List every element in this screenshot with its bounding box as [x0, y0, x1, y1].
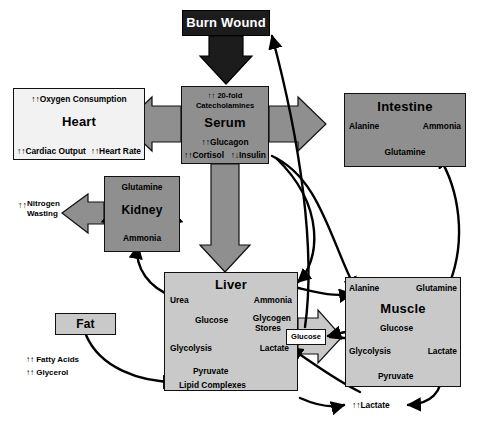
node-intestine[interactable]: Intestine Alanine Ammonia Glutamine [344, 93, 466, 167]
liver-lactate: Lactate [260, 343, 289, 353]
curve-muscle-to-intestine [438, 155, 459, 282]
lactate-increase-label: ↑↑Lactate [352, 400, 390, 410]
fat-title: Fat [76, 317, 95, 331]
liver-title: Liver [165, 277, 297, 292]
liver-ammonia: Ammonia [254, 295, 292, 305]
liver-glycogen-stores-line2: Stores [255, 323, 281, 333]
fatty-acids-label: ↑↑ Fatty Acids [26, 355, 79, 364]
node-burn-wound[interactable]: Burn Wound [182, 10, 270, 36]
block-arrow-serum-to-liver [200, 164, 250, 272]
glucose-bridge-label: Glucose [286, 329, 326, 345]
block-arrow-serum-to-intestine [269, 97, 326, 151]
liver-lipid-complexes: Lipid Complexes [179, 380, 246, 390]
node-heart[interactable]: ↑↑Oxygen Consumption Heart ↑↑Cardiac Out… [13, 88, 145, 160]
diagram-canvas: Burn Wound ↑↑ 20-fold Catecholamines Ser… [0, 0, 479, 421]
muscle-lactate: Lactate [428, 346, 457, 356]
liver-glycogen-stores-line1: Glycogen [253, 313, 291, 323]
curve-liver-to-muscle-alanine [294, 287, 352, 295]
node-muscle[interactable]: Alanine Glutamine Muscle Glucose Glycoly… [345, 277, 461, 387]
serum-cortisol: ↑↑Cortisol [184, 150, 224, 160]
intestine-title: Intestine [345, 99, 465, 114]
liver-glucose: Glucose [195, 315, 228, 325]
liver-urea: Urea [170, 295, 189, 305]
node-fat[interactable]: Fat [55, 313, 116, 335]
block-arrow-burnwound-to-serum [200, 36, 252, 84]
node-kidney[interactable]: Glutamine Kidney Ammonia [104, 176, 180, 252]
node-liver[interactable]: Liver Urea Ammonia Glucose Glycogen Stor… [164, 272, 298, 391]
liver-pyruvate: Pyruvate [193, 366, 228, 376]
kidney-title: Kidney [105, 203, 179, 217]
serum-catecholamines-line1: ↑↑ 20-fold [182, 91, 268, 100]
node-serum[interactable]: ↑↑ 20-fold Catecholamines Serum ↑↑Glucag… [181, 86, 269, 164]
serum-title: Serum [182, 115, 268, 130]
intestine-glutamine: Glutamine [345, 147, 465, 157]
muscle-glucose: Glucose [380, 323, 413, 333]
muscle-pyruvate: Pyruvate [378, 371, 413, 381]
muscle-alanine: Alanine [349, 283, 379, 293]
kidney-ammonia: Ammonia [105, 233, 179, 243]
nitrogen-wasting-line2: Wasting [27, 209, 58, 218]
muscle-title: Muscle [346, 301, 460, 316]
muscle-glycolysis: Glycolysis [349, 346, 391, 356]
muscle-glutamine: Glutamine [416, 283, 457, 293]
heart-title: Heart [14, 114, 144, 129]
nitrogen-wasting-arrows: ↑↑ [18, 200, 27, 210]
serum-glucagon: ↑↑Glucagon [182, 137, 268, 147]
burn-wound-title: Burn Wound [183, 11, 269, 35]
curve-fat-to-lipid-complexes [86, 335, 176, 382]
intestine-alanine: Alanine [349, 121, 379, 131]
serum-insulin: ↑↓Insulin [231, 150, 266, 160]
kidney-glutamine: Glutamine [105, 182, 179, 192]
nitrogen-wasting-line1: Nitrogen [27, 199, 60, 208]
liver-glycolysis: Glycolysis [170, 343, 212, 353]
heart-cardiac-output: ↑↑Cardiac Output [17, 146, 86, 156]
serum-catecholamines-line2: Catecholamines [182, 101, 268, 110]
glycerol-label: ↑↑ Glycerol [26, 368, 68, 377]
intestine-ammonia: Ammonia [423, 121, 461, 131]
block-arrow-kidney-to-nitrogen-wasting [62, 194, 104, 233]
curve-liver-lactate-to-bottom [300, 398, 344, 406]
heart-heart-rate: ↑↑Heart Rate [91, 146, 141, 156]
heart-oxygen-consumption: ↑↑Oxygen Consumption [14, 94, 144, 104]
